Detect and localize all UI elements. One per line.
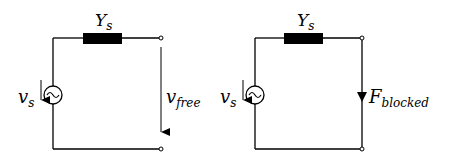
terminal-top (360, 36, 364, 40)
terminal-bottom (360, 147, 364, 151)
output-label: Fblocked (368, 86, 429, 110)
source-label: vs (220, 86, 236, 110)
impedance-block (284, 33, 323, 44)
force-arrow-icon (357, 92, 367, 102)
impedance-label: Ys (297, 10, 314, 33)
blocked-circuit: Ys vs Fblocked (220, 10, 429, 151)
output-label: vfree (166, 86, 201, 110)
free-circuit: Ys vs vfree (18, 10, 201, 151)
circuit-diagram: Ys vs vfree Ys vs Fblocked (0, 0, 449, 163)
terminal-bottom (159, 147, 163, 151)
source-label: vs (18, 86, 34, 110)
impedance-block (83, 33, 122, 44)
impedance-label: Ys (95, 10, 112, 33)
terminal-top (159, 36, 163, 40)
